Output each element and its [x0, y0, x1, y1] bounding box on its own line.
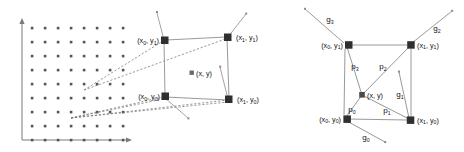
right-label-x0y1: (x0, y1) — [321, 41, 343, 51]
corr-line-x0y1 — [84, 41, 163, 90]
left-node-x1y1 — [224, 34, 232, 42]
label-g3: g3 — [326, 15, 333, 25]
corr-line-x1y0-b — [71, 102, 228, 118]
edge-bottom — [165, 97, 228, 100]
right-center-marker-icon — [359, 92, 365, 98]
left-label-x0y1: (x0, y1) — [137, 36, 159, 46]
p3-line — [347, 47, 362, 95]
p-vector-labels: p0 p1 p2 p3 — [348, 62, 390, 116]
right-label-x1y0: (x1, y0) — [417, 116, 439, 126]
left-node-x1y0 — [225, 96, 233, 104]
correspondence-lines — [71, 38, 228, 118]
left-node-x0y0 — [162, 93, 170, 101]
r-edge-bottom — [347, 119, 407, 120]
edge-right — [227, 38, 229, 98]
right-corner-labels: (x0, y1) (x1, y1) (x0, y0) (x1, y0) (x, … — [319, 41, 439, 126]
stub-x1y0-tip-icon — [219, 66, 221, 68]
stub-x0y0-tip-icon — [187, 117, 189, 119]
left-label-x0y0: (x0, y0) — [138, 92, 160, 102]
right-node-x1y1 — [407, 41, 415, 49]
right-label-center: (x, y) — [367, 91, 383, 100]
left-label-center: (x, y) — [196, 69, 212, 78]
g3-line — [305, 9, 344, 43]
g1-tip-icon — [398, 71, 400, 73]
g2-line — [412, 11, 452, 43]
left-label-x1y0: (x1, y0) — [237, 95, 259, 105]
label-g2: g2 — [433, 24, 440, 34]
corr-line-x1y0 — [71, 100, 228, 118]
y-axis-arrow-icon — [19, 18, 24, 24]
right-node-x0y0 — [343, 115, 351, 123]
x-axis-arrow-icon — [126, 137, 132, 142]
left-node-x0y1 — [161, 37, 169, 45]
g2-tip-icon — [451, 10, 453, 12]
figure-canvas: (x0, y1) (x1, y1) (x0, y0) (x1, y0) (x, … — [0, 0, 464, 152]
label-g0: g0 — [362, 133, 369, 143]
g0-tip-icon — [384, 141, 386, 143]
label-p3: p3 — [351, 62, 358, 72]
label-p0: p0 — [348, 105, 355, 115]
stub-x0y1-tip-icon — [156, 11, 158, 13]
right-label-x0y0: (x0, y0) — [319, 115, 341, 125]
right-panel: (x0, y1) (x1, y1) (x0, y0) (x1, y0) (x, … — [304, 8, 453, 143]
right-node-x1y0 — [407, 116, 415, 124]
left-center-marker-icon — [190, 71, 194, 75]
g3-tip-icon — [304, 8, 306, 10]
left-label-x1y1: (x1, y1) — [236, 33, 258, 43]
right-label-x1y1: (x1, y1) — [417, 41, 439, 51]
left-corner-labels: (x0, y1) (x1, y1) (x0, y0) (x1, y0) (x, … — [137, 33, 259, 105]
label-g1: g1 — [396, 90, 403, 100]
right-node-x0y1 — [345, 41, 353, 49]
r-edge-left — [344, 49, 345, 115]
left-corner-stubs — [156, 11, 247, 119]
sample-dot-grid — [31, 27, 125, 142]
edge-top — [166, 37, 226, 40]
bilinear-interpolation-figure: (x0, y1) (x1, y1) (x0, y0) (x1, y0) (x, … — [0, 0, 464, 152]
edge-left — [164, 41, 165, 96]
label-p1: p1 — [383, 106, 390, 116]
stub-x1y0 — [220, 67, 228, 99]
corr-line-x0y0-b — [71, 99, 163, 118]
left-panel: (x0, y1) (x1, y1) (x0, y0) (x1, y0) (x, … — [19, 11, 258, 143]
axis-group — [19, 18, 132, 143]
label-p2: p2 — [379, 62, 386, 72]
stub-x1y1-tip-icon — [245, 13, 247, 15]
